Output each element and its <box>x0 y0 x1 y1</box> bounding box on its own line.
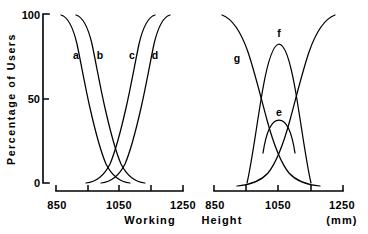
curve-label-b: b <box>97 49 103 61</box>
left-panel-curves <box>61 15 170 183</box>
right-x-tick-label-1250: 1250 <box>329 199 355 211</box>
y-tick-label-50: 50 <box>28 93 40 105</box>
curve-label-g: g <box>234 52 240 64</box>
right-panel-curves <box>222 15 335 186</box>
right-x-tick-label-1050: 1050 <box>265 199 291 211</box>
right-x-tick-label-850: 850 <box>205 199 225 211</box>
x-axis-title-working: Working <box>124 214 176 226</box>
left-x-tick-label-1050: 1050 <box>106 199 132 211</box>
y-tick-label-100: 100 <box>22 9 40 21</box>
curve-label-a: a <box>73 49 79 61</box>
curve-b <box>76 15 145 183</box>
left-x-tick-label-850: 850 <box>47 199 67 211</box>
curve-label-d: d <box>152 49 158 61</box>
chart-canvas: 100 50 0 Percentage of Users 850 1050 12… <box>0 0 368 234</box>
curve-label-e: e <box>276 106 282 118</box>
x-axis-units: (mm) <box>326 214 357 226</box>
curve-c <box>86 15 155 183</box>
curve-label-c: c <box>129 49 135 61</box>
left-x-axis <box>56 185 183 191</box>
right-x-axis <box>214 185 343 191</box>
curve-d <box>101 15 170 183</box>
curve-a <box>61 15 130 183</box>
x-axis-title-height: Height <box>202 214 243 226</box>
chart-figure: 100 50 0 Percentage of Users 850 1050 12… <box>0 0 368 234</box>
curve-label-f: f <box>277 27 281 39</box>
y-axis <box>43 14 49 183</box>
curve-g <box>222 15 320 186</box>
y-axis-title: Percentage of Users <box>5 33 17 165</box>
left-x-tick-label-1250: 1250 <box>170 199 196 211</box>
y-tick-label-0: 0 <box>34 177 40 189</box>
